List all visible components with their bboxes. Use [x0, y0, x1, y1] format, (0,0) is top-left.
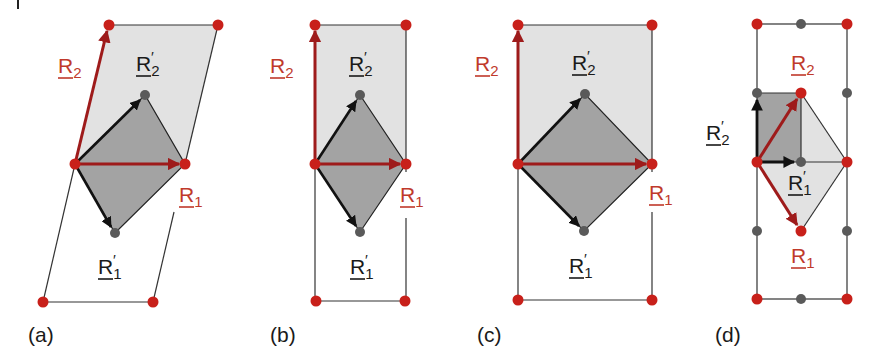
panel-label-b: (b)	[270, 323, 296, 346]
lattice-point-origin	[513, 159, 524, 170]
svg-text:′: ′	[151, 48, 154, 65]
lattice-point-gray	[580, 89, 590, 99]
label-R1-prime: R1 ′	[569, 250, 593, 281]
svg-text:′: ′	[113, 251, 116, 268]
label-R1: R1	[179, 183, 203, 210]
lattice-point-gray	[796, 19, 806, 29]
svg-text:′: ′	[365, 251, 368, 268]
lattice-point	[104, 20, 115, 31]
label-R2: R2	[270, 54, 294, 81]
lattice-point-gray	[752, 88, 762, 98]
svg-text:R2: R2	[706, 121, 730, 148]
svg-text:R1: R1	[569, 254, 593, 281]
lattice-point-gray	[579, 226, 589, 236]
svg-text:R2: R2	[791, 51, 815, 78]
svg-text:′: ′	[364, 48, 367, 65]
cell-edge	[43, 164, 75, 302]
svg-text:R2: R2	[58, 54, 82, 81]
svg-text:R2: R2	[475, 52, 499, 79]
svg-text:′: ′	[721, 117, 724, 134]
lattice-point	[148, 297, 159, 308]
svg-text:R1: R1	[98, 255, 122, 282]
panel-d: R2 R2 ′ R1 ′ R1 (d)	[706, 19, 853, 347]
lattice-point	[513, 295, 524, 306]
lattice-point-gray	[842, 88, 852, 98]
lattice-point	[647, 159, 658, 170]
lattice-point	[310, 20, 321, 31]
lattice-point	[213, 20, 224, 31]
lattice-point-gray	[110, 228, 120, 238]
lattice-point-gray	[355, 227, 365, 237]
panel-b: R2 R2 ′ R1 R1 ′ (b)	[270, 20, 424, 347]
lattice-point-gray	[842, 226, 852, 236]
panel-c: R2 R2 ′ R1 R1 ′ (c)	[475, 20, 673, 347]
lattice-point-origin	[752, 157, 763, 168]
label-R1: R1	[400, 183, 424, 210]
lattice-point	[752, 294, 763, 305]
lattice-point	[796, 88, 807, 99]
lattice-point-gray	[140, 90, 150, 100]
svg-text:R1: R1	[791, 244, 815, 271]
lattice-point-gray	[796, 157, 806, 167]
svg-text:′: ′	[803, 167, 806, 184]
lattice-vector-figure: R2 R2 ′ R1 R1 ′ (a)	[0, 0, 880, 358]
panel-label-d: (d)	[715, 323, 741, 346]
label-R2: R2	[58, 54, 82, 81]
label-R1-prime: R1 ′	[98, 251, 122, 282]
lattice-point-origin	[310, 159, 321, 170]
lattice-point	[513, 20, 524, 31]
lattice-point	[400, 296, 411, 307]
label-R1-prime: R1 ′	[350, 251, 374, 282]
lattice-point	[647, 295, 658, 306]
lattice-point	[842, 294, 853, 305]
panel-label-a: (a)	[28, 323, 54, 346]
label-R1: R1	[791, 244, 815, 271]
svg-text:R1: R1	[350, 255, 374, 282]
lattice-point-gray	[752, 226, 762, 236]
lattice-point	[796, 226, 807, 237]
svg-text:R2: R2	[270, 54, 294, 81]
label-R2-prime: R2 ′	[706, 117, 730, 148]
svg-text:R1: R1	[179, 183, 203, 210]
panel-a: R2 R2 ′ R1 R1 ′ (a)	[28, 20, 224, 347]
label-R1: R1	[649, 181, 673, 208]
svg-text:R1: R1	[400, 183, 424, 210]
lattice-point	[647, 20, 658, 31]
lattice-point	[752, 19, 763, 30]
panel-label-c: (c)	[477, 323, 502, 346]
svg-text:R1: R1	[649, 181, 673, 208]
cell-edge	[153, 212, 174, 302]
svg-text:′: ′	[587, 47, 590, 64]
lattice-point	[38, 297, 49, 308]
lattice-point	[311, 296, 322, 307]
label-R2: R2	[791, 51, 815, 78]
lattice-point-gray	[796, 294, 806, 304]
lattice-point	[401, 159, 412, 170]
lattice-point-origin	[70, 159, 81, 170]
lattice-point	[842, 19, 853, 30]
lattice-point	[842, 157, 853, 168]
lattice-point	[401, 20, 412, 31]
svg-text:′: ′	[584, 250, 587, 267]
lattice-point	[180, 159, 191, 170]
lattice-point-gray	[355, 90, 365, 100]
label-R2: R2	[475, 52, 499, 79]
